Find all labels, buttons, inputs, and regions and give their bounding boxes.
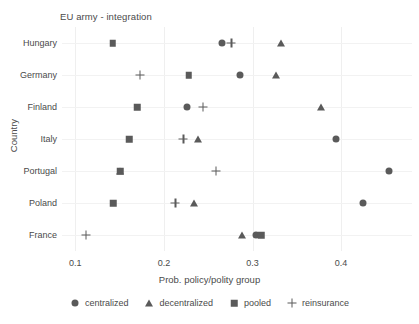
data-point-decentralized-france [238,232,246,239]
data-point-centralized-portugal [385,168,392,175]
y-tick-label-germany: Germany [20,70,57,80]
data-point-decentralized-germany [272,72,280,79]
legend-label-pooled: pooled [244,298,271,308]
y-tick-label-italy: Italy [40,134,57,144]
y-tick-label-france: France [29,230,57,240]
data-point-reinsurance-france [81,231,90,240]
chart-title: EU army - integration [60,11,152,22]
data-point-centralized-italy [332,136,339,143]
y-tick-label-hungary: Hungary [23,38,57,48]
data-point-pooled-italy [126,136,133,143]
circle-icon [70,298,80,308]
legend-label-reinsurance: reinsurance [302,298,349,308]
data-point-reinsurance-finland [198,103,207,112]
data-point-reinsurance-germany [135,71,144,80]
data-point-decentralized-italy [194,136,202,143]
y-tick-label-poland: Poland [29,198,57,208]
data-point-centralized-hungary [219,40,226,47]
x-axis-title: Prob. policy/polity group [0,274,419,285]
y-axis-tick-labels: HungaryGermanyFinlandItalyPortugalPoland… [0,27,57,251]
y-tick-label-portugal: Portugal [23,166,57,176]
data-point-decentralized-finland [317,104,325,111]
data-point-reinsurance-portugal [212,167,221,176]
data-point-pooled-hungary [109,40,116,47]
chart-figure: EU army - integration Country HungaryGer… [0,0,419,324]
x-tick-label-3: 0.4 [335,258,348,268]
data-point-reinsurance-italy [179,135,188,144]
gridline-horizontal-3 [62,139,412,140]
data-point-pooled-finland [134,104,141,111]
x-axis-tick-labels: 0.10.20.30.4 [0,258,419,270]
gridline-horizontal-4 [62,171,412,172]
data-point-pooled-poland [110,200,117,207]
x-tick-label-1: 0.2 [158,258,171,268]
y-tick-label-finland: Finland [27,102,57,112]
data-point-pooled-france [258,232,265,239]
legend-label-decentralized: decentralized [159,298,213,308]
gridline-horizontal-2 [62,107,412,108]
data-point-reinsurance-poland [171,199,180,208]
data-point-centralized-germany [237,72,244,79]
data-point-pooled-portugal [117,168,124,175]
plot-area [62,27,412,251]
data-point-centralized-poland [360,200,367,207]
x-tick-label-2: 0.3 [246,258,259,268]
legend-item-centralized[interactable]: centralized [70,298,129,308]
plus-icon [287,298,297,308]
x-tick-label-0: 0.1 [69,258,82,268]
triangle-icon [144,298,154,308]
legend-item-pooled[interactable]: pooled [229,298,271,308]
chart-legend: centralizeddecentralizedpooledreinsuranc… [0,298,419,308]
data-point-reinsurance-hungary [227,39,236,48]
data-point-decentralized-poland [190,200,198,207]
legend-item-reinsurance[interactable]: reinsurance [287,298,349,308]
data-point-decentralized-hungary [277,40,285,47]
data-point-centralized-finland [183,104,190,111]
legend-item-decentralized[interactable]: decentralized [144,298,213,308]
data-point-pooled-germany [185,72,192,79]
square-icon [229,298,239,308]
legend-label-centralized: centralized [85,298,129,308]
